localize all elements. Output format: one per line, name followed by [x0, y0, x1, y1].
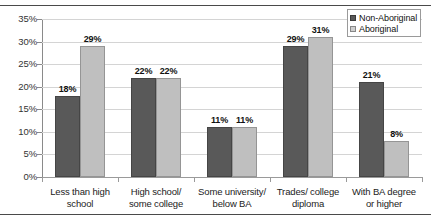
- grouped-bar-chart: 35%30%25%20%15%10%5%0% 18%29%22%22%11%11…: [0, 6, 431, 214]
- bar-value-label: 29%: [84, 34, 101, 44]
- bar-0-0: [55, 96, 80, 177]
- x-axis-tick: [118, 177, 119, 182]
- bar-value-label: 29%: [287, 34, 304, 44]
- bottom-divider-rule: [0, 214, 431, 215]
- bar-0-2: [207, 127, 232, 177]
- bar-0-4: [359, 82, 384, 177]
- x-axis-tick: [42, 177, 43, 182]
- bar-1-4: [384, 141, 409, 177]
- chart-page: { "chart_data": { "type": "bar", "title"…: [0, 0, 431, 221]
- bar-1-1: [156, 78, 181, 177]
- y-axis-tick-label: 0%: [23, 172, 37, 182]
- x-axis-label-line: or higher: [366, 198, 402, 209]
- y-axis-tick-label: 25%: [18, 59, 37, 69]
- bar-1-2: [232, 127, 257, 177]
- bar-value-label: 11%: [211, 115, 228, 125]
- bar-value-label: 22%: [135, 66, 152, 76]
- x-axis-label-line: below BA: [213, 198, 252, 209]
- x-axis-label-line: Some university/: [198, 186, 266, 197]
- legend-item-aboriginal: Aboriginal: [350, 23, 417, 34]
- x-axis-label-line: With BA degree: [352, 186, 416, 197]
- y-axis-tick-label: 15%: [18, 104, 37, 114]
- y-axis-tick-label: 35%: [18, 14, 37, 24]
- legend-swatch-icon-aboriginal: [350, 26, 356, 32]
- bar-value-label: 22%: [160, 66, 177, 76]
- bar-value-label: 11%: [236, 115, 253, 125]
- bar-value-label: 21%: [363, 70, 380, 80]
- chart-legend: Non-Aboriginal Aboriginal: [347, 9, 421, 37]
- bar-1-3: [308, 37, 333, 177]
- x-axis-label-line: High school/: [131, 186, 181, 197]
- x-axis-label-line: Less than high: [50, 186, 110, 197]
- bar-0-1: [131, 78, 156, 177]
- x-axis-tick: [422, 177, 423, 182]
- legend-swatch-icon-non-aboriginal: [350, 15, 356, 21]
- legend-label-non-aboriginal: Non-Aboriginal: [359, 13, 417, 23]
- x-axis-label-line: Trades/ college: [277, 186, 339, 197]
- x-axis-label-line: diploma: [292, 198, 324, 209]
- bar-value-label: 8%: [390, 129, 403, 139]
- y-axis-tick-label: 30%: [18, 37, 37, 47]
- x-axis-label-line: school: [67, 198, 94, 209]
- y-axis-tick-label: 20%: [18, 82, 37, 92]
- x-axis-label-line: some college: [129, 198, 183, 209]
- bar-value-label: 18%: [59, 84, 76, 94]
- x-axis-tick: [270, 177, 271, 182]
- x-axis-category-label: With BA degreeor higher: [339, 186, 429, 209]
- gridline: [42, 177, 422, 178]
- legend-item-non-aboriginal: Non-Aboriginal: [350, 12, 417, 23]
- bar-1-0: [80, 46, 105, 177]
- y-axis-tick-label: 10%: [18, 127, 37, 137]
- bar-0-3: [283, 46, 308, 177]
- bar-value-label: 31%: [312, 25, 329, 35]
- y-axis-tick-label: 5%: [23, 149, 37, 159]
- legend-label-aboriginal: Aboriginal: [359, 24, 398, 34]
- x-axis-tick: [346, 177, 347, 182]
- x-axis-tick: [194, 177, 195, 182]
